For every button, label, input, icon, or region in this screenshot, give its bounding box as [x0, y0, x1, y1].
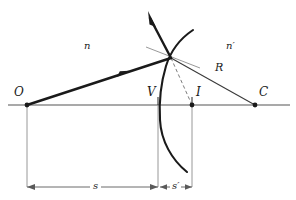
- label-index-left: n: [84, 41, 90, 51]
- label-image-distance: s′: [170, 181, 181, 191]
- label-vertex: V: [147, 86, 156, 98]
- label-index-right: n′: [226, 41, 235, 51]
- dimension-arrow-s-left: [27, 184, 35, 190]
- center-point-dot: [253, 103, 258, 108]
- figure-canvas: [0, 0, 296, 200]
- dimension-arrow-sprime-left: [160, 184, 167, 189]
- label-center-of-curvature: C: [259, 86, 268, 98]
- spherical-surface-arc: [160, 30, 193, 172]
- label-object-point: O: [14, 86, 24, 98]
- dimension-arrow-sprime-right: [185, 184, 192, 189]
- optics-refraction-figure: O V I C n n′ R s s′: [0, 0, 296, 200]
- image-point-dot: [190, 103, 195, 108]
- object-point-dot: [25, 103, 30, 108]
- label-object-distance: s: [90, 181, 101, 191]
- label-radius: R: [215, 62, 223, 73]
- dashed-image-ray: [171, 58, 192, 105]
- label-image-point: I: [196, 86, 201, 98]
- dimension-arrow-s-right: [150, 184, 158, 190]
- normal-radius-line: [171, 58, 255, 105]
